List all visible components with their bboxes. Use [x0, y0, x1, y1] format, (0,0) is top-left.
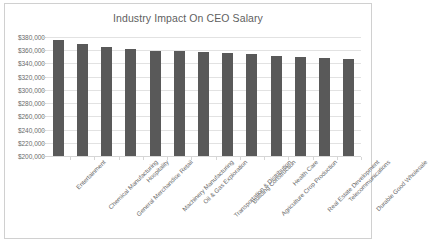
y-axis-tick — [43, 130, 46, 131]
x-axis-tick — [288, 157, 289, 160]
chart-title: Industry Impact On CEO Salary — [5, 12, 371, 24]
x-axis-tick — [119, 157, 120, 160]
x-axis-tick — [264, 157, 265, 160]
y-axis-tick — [43, 50, 46, 51]
x-axis-tick-label: Entertainment — [75, 159, 107, 191]
y-axis-tick — [43, 103, 46, 104]
y-axis-tick-label: $320,000 — [1, 73, 45, 80]
x-axis-tick — [216, 157, 217, 160]
y-axis-tick-label: $260,000 — [1, 113, 45, 120]
x-axis-tick-label: Building Construction — [251, 159, 297, 205]
bar[interactable] — [222, 53, 233, 156]
bar[interactable] — [150, 51, 161, 156]
y-axis-tick-label: $240,000 — [1, 126, 45, 133]
x-axis-tick — [313, 157, 314, 160]
y-axis-tick — [43, 143, 46, 144]
y-axis-tick — [43, 116, 46, 117]
y-axis-tick-label: $380,000 — [1, 34, 45, 41]
bar[interactable] — [174, 51, 185, 156]
bar[interactable] — [125, 49, 136, 156]
plot-area — [46, 37, 361, 156]
bar[interactable] — [246, 54, 257, 156]
bar[interactable] — [53, 40, 64, 156]
bar[interactable] — [271, 56, 282, 156]
x-axis-tick — [240, 157, 241, 160]
x-axis-tick — [191, 157, 192, 160]
bar[interactable] — [295, 57, 306, 156]
y-axis-tick-label: $280,000 — [1, 100, 45, 107]
x-axis: EntertainmentChemical ManufacturingGener… — [46, 157, 361, 239]
y-axis-tick-label: $220,000 — [1, 139, 45, 146]
bar[interactable] — [77, 44, 88, 156]
y-axis-tick-label: $200,000 — [1, 153, 45, 160]
y-axis-tick — [43, 77, 46, 78]
y-axis-tick — [43, 37, 46, 38]
y-axis-tick — [43, 63, 46, 64]
x-axis-tick — [361, 157, 362, 160]
bar[interactable] — [198, 52, 209, 156]
gridline — [46, 37, 361, 38]
y-axis-tick-label: $300,000 — [1, 86, 45, 93]
x-axis-tick-label: Real Estate Development — [327, 159, 381, 213]
chart-container: Industry Impact On CEO Salary $200,000$2… — [4, 3, 372, 239]
bar[interactable] — [319, 58, 330, 156]
x-axis-tick — [143, 157, 144, 160]
x-axis-tick — [94, 157, 95, 160]
y-axis: $200,000$220,000$240,000$260,000$280,000… — [1, 37, 45, 156]
y-axis-tick — [43, 90, 46, 91]
y-axis-tick-label: $340,000 — [1, 60, 45, 67]
y-axis-tick-label: $360,000 — [1, 47, 45, 54]
x-axis-tick — [70, 157, 71, 160]
bar[interactable] — [343, 59, 354, 156]
x-axis-tick — [167, 157, 168, 160]
x-axis-tick — [337, 157, 338, 160]
bar[interactable] — [101, 47, 112, 156]
